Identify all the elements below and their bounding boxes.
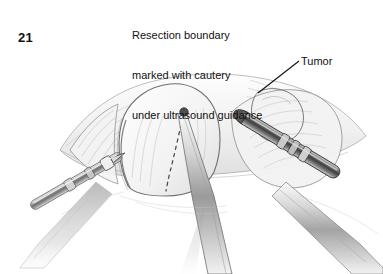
caption-line-2: marked with cautery <box>132 69 262 82</box>
tumor-label: Tumor <box>301 55 332 67</box>
figure-caption: Resection boundary marked with cautery u… <box>132 2 262 149</box>
caption-line-3: under ultrasound guidance <box>132 109 262 122</box>
caption-line-1: Resection boundary <box>132 29 262 42</box>
figure-number: 21 <box>18 30 33 45</box>
figure-container: 21 Resection boundary marked with cauter… <box>0 0 383 274</box>
